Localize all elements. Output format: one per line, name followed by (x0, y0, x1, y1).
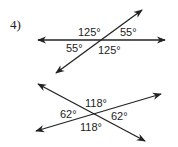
problem-number: 4) (10, 17, 21, 32)
figure-bottom: 118° 62° 62° 118° (36, 84, 161, 141)
angle-label-lower-right: 125° (98, 44, 121, 56)
figure-top: 125° 55° 55° 125° (38, 10, 165, 73)
angle-label-right: 62° (111, 110, 128, 122)
diagram-canvas: 4) 125° 55° 55° 125° 118° 62° 62° 118° (0, 0, 178, 147)
angle-label-lower-left: 55° (66, 42, 83, 54)
angle-label-left: 62° (60, 108, 77, 120)
angle-label-upper-left: 125° (78, 26, 101, 38)
angle-label-bottom: 118° (80, 121, 102, 133)
angle-label-upper-right: 55° (120, 26, 137, 38)
angle-label-top: 118° (85, 97, 107, 109)
